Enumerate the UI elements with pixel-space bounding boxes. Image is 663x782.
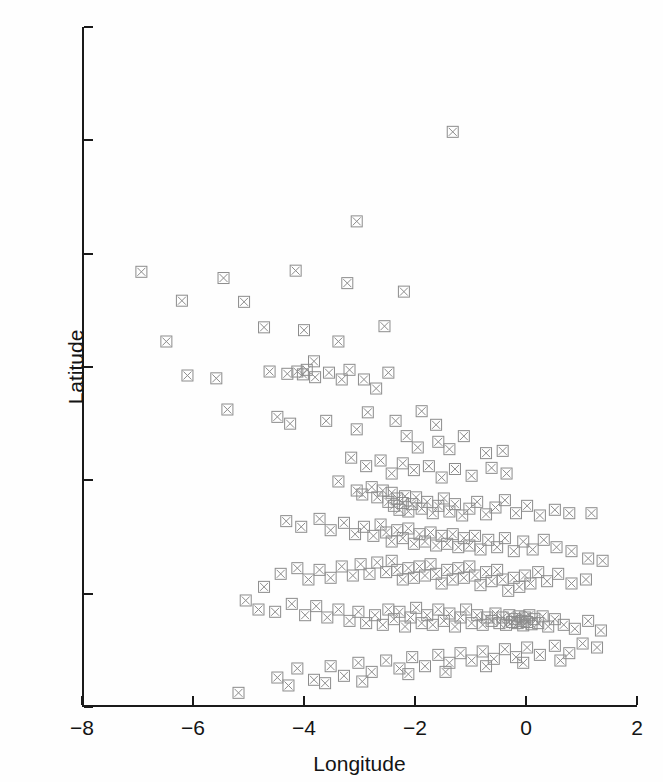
- scatter-point: [344, 364, 355, 375]
- scatter-point: [381, 567, 392, 578]
- scatter-point: [161, 336, 172, 347]
- scatter-point: [240, 595, 251, 606]
- scatter-point: [264, 366, 275, 377]
- scatter-plot-figure: 50525456586062 −8−6−4−202 Latitude Longi…: [0, 0, 663, 782]
- scatter-point: [433, 436, 444, 447]
- scatter-point: [233, 687, 244, 698]
- scatter-point: [362, 407, 373, 418]
- scatter-point: [342, 278, 353, 289]
- scatter-point: [534, 510, 545, 521]
- scatter-point: [357, 676, 368, 687]
- scatter-point: [371, 383, 382, 394]
- scatter-point: [458, 431, 469, 442]
- scatter-point: [583, 615, 594, 626]
- scatter-point: [447, 126, 458, 137]
- scatter-point: [466, 655, 477, 666]
- scatter-point: [285, 418, 296, 429]
- scatter-point: [412, 442, 423, 453]
- scatter-point: [222, 404, 233, 415]
- scatter-point: [292, 663, 303, 674]
- scatter-point: [542, 576, 553, 587]
- scatter-point: [533, 618, 544, 629]
- scatter-point: [472, 496, 483, 507]
- scatter-point: [398, 286, 409, 297]
- scatter-point: [408, 465, 419, 476]
- scatter-point: [466, 470, 477, 481]
- scatter-point: [325, 525, 336, 536]
- scatter-point: [182, 370, 193, 381]
- scatter-point: [353, 657, 364, 668]
- scatter-point: [566, 546, 577, 557]
- scatter-point: [347, 570, 358, 581]
- y-axis-label: Latitude: [64, 330, 88, 405]
- scatter-point: [325, 572, 336, 583]
- scatter-point: [176, 295, 187, 306]
- scatter-point: [569, 623, 580, 634]
- scatter-point: [239, 296, 250, 307]
- scatter-point: [592, 642, 603, 653]
- scatter-point: [386, 468, 397, 479]
- scatter-point: [211, 373, 222, 384]
- scatter-point: [549, 640, 560, 651]
- scatter-point: [338, 517, 349, 528]
- scatter-point: [407, 652, 418, 663]
- scatter-point: [597, 555, 608, 566]
- scatter-point: [351, 216, 362, 227]
- scatter-point: [551, 542, 562, 553]
- scatter-point: [433, 649, 444, 660]
- scatter-point: [497, 445, 508, 456]
- scatter-point: [323, 367, 334, 378]
- scatter-point: [338, 670, 349, 681]
- x-tick-mark: [81, 696, 83, 705]
- y-tick-mark: [84, 26, 93, 28]
- scatter-point: [303, 574, 314, 585]
- x-tick-label: 2: [602, 717, 663, 738]
- scatter-point: [499, 644, 510, 655]
- scatter-point: [503, 585, 514, 596]
- scatter-point: [272, 672, 283, 683]
- y-tick-mark: [84, 479, 93, 481]
- x-axis-label: Longitude: [82, 752, 637, 776]
- scatter-point: [580, 574, 591, 585]
- scatter-point: [361, 461, 372, 472]
- scatter-point: [379, 321, 390, 332]
- scatter-point: [320, 678, 331, 689]
- scatter-point: [583, 553, 594, 564]
- scatter-point: [136, 266, 147, 277]
- scatter-point: [333, 336, 344, 347]
- scatter-point: [381, 655, 392, 666]
- scatter-point: [586, 508, 597, 519]
- scatter-point: [411, 492, 422, 503]
- scatter-point: [527, 544, 538, 555]
- scatter-point: [308, 674, 319, 685]
- scatter-point: [481, 661, 492, 672]
- scatter-point: [375, 455, 386, 466]
- scatter-point: [449, 464, 460, 475]
- scatter-point: [595, 625, 606, 636]
- scatter-point: [481, 448, 492, 459]
- scatter-point: [299, 325, 310, 336]
- scatter-point: [314, 564, 325, 575]
- scatter-point: [259, 581, 270, 592]
- scatter-point: [275, 568, 286, 579]
- scatter-point: [549, 504, 560, 515]
- y-tick-mark: [84, 253, 93, 255]
- scatter-point: [433, 604, 444, 615]
- scatter-point: [397, 458, 408, 469]
- scatter-point: [259, 322, 270, 333]
- x-tick-label: −6: [158, 717, 228, 738]
- scatter-point: [364, 568, 375, 579]
- scatter-point: [534, 649, 545, 660]
- scatter-point: [300, 610, 311, 621]
- scatter-point: [346, 452, 357, 463]
- scatter-point: [296, 521, 307, 532]
- scatter-point: [368, 530, 379, 541]
- scatter-point: [353, 606, 364, 617]
- scatter-point: [419, 661, 430, 672]
- scatter-point: [522, 642, 533, 653]
- scatter-point: [290, 265, 301, 276]
- scatter-point: [501, 468, 512, 479]
- scatter-point: [431, 419, 442, 430]
- scatter-point: [522, 500, 533, 511]
- scatter-point: [538, 534, 549, 545]
